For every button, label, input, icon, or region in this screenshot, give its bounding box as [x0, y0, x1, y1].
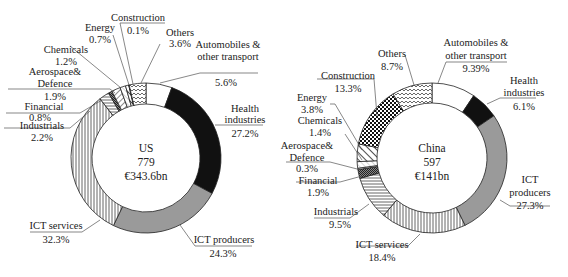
china-label-ict-producers-pct: 27.3%	[516, 200, 543, 211]
china-label-industrials-pct: 9.5%	[329, 219, 351, 230]
donut-segment-construction	[358, 94, 403, 148]
china-label-others-pct: 8.7%	[381, 61, 403, 72]
china-label-health-2: industries	[504, 87, 545, 98]
us-label-ict-services: ICT services	[29, 220, 82, 231]
china-label-energy-pct: 3.8%	[301, 104, 323, 115]
china-label-financial: Financial	[298, 175, 337, 186]
us-label-others-pct: 3.6%	[169, 38, 191, 49]
us-label-financial-pct: 0.8%	[29, 112, 51, 123]
us-center-label: US 779 €343.6bn	[124, 142, 167, 182]
donut-segment-ict-producers	[456, 116, 507, 226]
china-label-ict-producers-2: producers	[509, 187, 550, 198]
us-label-construction: Construction	[111, 12, 166, 23]
china-label-ict-services: ICT services	[355, 239, 408, 250]
us-label-aerospace-2: Defence	[38, 78, 73, 89]
china-label-chemicals: Chemicals	[298, 115, 342, 126]
china-label-automobiles-2: other transport	[445, 50, 507, 61]
china-company-count: 597	[423, 156, 441, 168]
us-label-aerospace-1: Aerospace&	[29, 66, 81, 77]
china-label-ict-producers-1: ICT	[522, 174, 540, 185]
us-label-aerospace-pct: 1.9%	[44, 91, 66, 102]
us-label-industrials-pct: 2.2%	[31, 132, 53, 143]
china-label-construction-pct: 13.3%	[334, 83, 361, 94]
us-label-health-1: Health	[231, 103, 260, 114]
us-label-ict-services-pct: 32.3%	[42, 234, 69, 245]
china-label-aerospace-pct: 0.3%	[296, 163, 318, 174]
china-label-automobiles-1: Automobiles &	[443, 37, 508, 48]
china-label-health-pct: 6.1%	[513, 101, 535, 112]
us-label-energy: Energy	[85, 22, 116, 33]
china-country-label: China	[418, 142, 445, 154]
donut-charts: US 779 €343.6bn China 597 €141bn Automob…	[0, 0, 568, 277]
us-label-health-pct: 27.2%	[231, 128, 258, 139]
donut-segment-ict-services	[71, 99, 123, 226]
us-label-financial: Financial	[24, 101, 63, 112]
donut-segment-health-industries	[165, 88, 221, 194]
us-company-count: 779	[137, 156, 155, 168]
china-label-industrials: Industrials	[314, 206, 358, 217]
donut-segment-ict-producers	[113, 184, 212, 233]
us-label-energy-pct: 0.7%	[89, 34, 111, 45]
china-label-aerospace-2: Defence	[290, 152, 325, 163]
china-label-health-1: Health	[510, 75, 539, 86]
china-label-ict-services-pct: 18.4%	[368, 252, 395, 263]
us-label-ict-producers: ICT producers	[194, 234, 255, 245]
us-label-construction-pct: 0.1%	[127, 25, 149, 36]
us-label-health-2: industries	[225, 114, 266, 125]
china-label-others: Others	[378, 48, 406, 59]
china-center-label: China 597 €141bn	[415, 142, 450, 182]
us-label-others: Others	[166, 27, 194, 38]
us-label-automobiles-pct: 5.6%	[215, 77, 237, 88]
china-label-energy: Energy	[297, 92, 328, 103]
china-label-aerospace-1: Aerospace&	[281, 140, 333, 151]
us-label-automobiles-2: other transport	[197, 51, 259, 62]
us-total-value: €343.6bn	[124, 170, 167, 182]
us-label-ict-producers-pct: 24.3%	[209, 248, 236, 259]
china-label-construction: Construction	[321, 70, 376, 81]
china-label-financial-pct: 1.9%	[307, 187, 329, 198]
china-total-value: €141bn	[415, 170, 450, 182]
us-label-chemicals: Chemicals	[44, 44, 88, 55]
donut-segment-ict-services	[384, 200, 465, 233]
us-label-chemicals-pct: 1.2%	[55, 56, 77, 67]
china-label-automobiles-pct: 9.39%	[462, 63, 489, 74]
china-label-chemicals-pct: 1.4%	[309, 127, 331, 138]
us-label-automobiles-1: Automobiles &	[195, 39, 260, 50]
us-country-label: US	[139, 142, 154, 154]
